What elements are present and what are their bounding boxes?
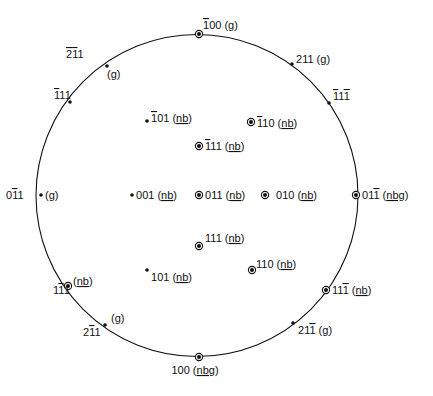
pole-label: 111 bbox=[53, 284, 70, 296]
pole-dot-marker bbox=[263, 193, 267, 197]
tag-paren: ) bbox=[241, 232, 245, 244]
pole-label: 011 (nb) bbox=[205, 189, 245, 201]
pole-1bar11-inner: 111 (nb) bbox=[195, 140, 244, 152]
tag-paren: ) bbox=[215, 364, 219, 376]
tag-paren: ) bbox=[242, 189, 246, 201]
reflection-tag: nb bbox=[176, 271, 188, 283]
tag-paren: ) bbox=[121, 312, 125, 324]
pole-label: 211 bbox=[83, 326, 101, 338]
pole-dot-marker bbox=[291, 321, 295, 325]
tag-paren: ) bbox=[294, 117, 298, 129]
pole-dot-marker bbox=[249, 120, 253, 124]
pole-1bar01: 101 (nb) bbox=[145, 112, 192, 124]
pole-tag-label: (g) bbox=[107, 68, 120, 80]
pole-dot-marker bbox=[145, 268, 149, 272]
pole-label: 111 bbox=[333, 90, 350, 102]
pole-label: 110 (nb) bbox=[256, 258, 296, 270]
reflection-tag: nb bbox=[228, 232, 240, 244]
tag-paren: ) bbox=[188, 112, 192, 124]
tag-paren: ) bbox=[55, 189, 59, 201]
pole-label: 101 (nb) bbox=[151, 271, 192, 283]
pole-label: 001 (nb) bbox=[136, 189, 177, 201]
reflection-tag: nb bbox=[161, 189, 173, 201]
pole-dot-marker bbox=[39, 193, 43, 197]
pole-label: 011 (nbg) bbox=[362, 189, 408, 201]
tag-paren: ) bbox=[293, 258, 297, 270]
poles-layer: 100 (g)211 (g)111211(g)111101 (nb)110 (n… bbox=[6, 19, 408, 376]
reflection-tag: nbg bbox=[386, 189, 404, 201]
pole-21bar1: 211(g) bbox=[83, 312, 124, 338]
pole-1bar11: 111 bbox=[54, 89, 72, 104]
reflection-tag: nb bbox=[301, 189, 313, 201]
pole-dot-marker bbox=[130, 193, 134, 197]
miller-digit: 1 bbox=[64, 284, 70, 296]
miller-digit: 1 bbox=[344, 90, 350, 102]
pole-label: 100 (g) bbox=[203, 19, 238, 31]
pole-dot-marker bbox=[290, 62, 294, 66]
pole-dot-marker bbox=[324, 288, 328, 292]
pole-111: 111 (nb) bbox=[195, 232, 244, 250]
pole-label: 010 (nb) bbox=[276, 189, 317, 201]
miller-digit: 1 bbox=[17, 189, 23, 201]
pole-dot-marker bbox=[197, 355, 201, 359]
pole-101: 101 (nb) bbox=[145, 268, 192, 283]
pole-1bar11bar: 111 bbox=[327, 90, 350, 105]
miller-digit: 1 bbox=[94, 326, 100, 338]
tag-paren: ) bbox=[173, 189, 177, 201]
reflection-tag: nb bbox=[77, 275, 89, 287]
pole-110: 110 (nb) bbox=[248, 258, 296, 274]
pole-dot-marker bbox=[103, 323, 107, 327]
pole-211bar: 211 (g) bbox=[291, 321, 332, 336]
pole-label: 101 (nb) bbox=[151, 112, 192, 124]
tag-paren: ) bbox=[188, 271, 192, 283]
reflection-tag: nbg bbox=[197, 364, 215, 376]
pole-100: 100 (nbg) bbox=[171, 353, 218, 376]
tag-paren: ) bbox=[241, 140, 245, 152]
pole-label: 211 (g) bbox=[296, 53, 330, 65]
pole-011: 011 (nb) bbox=[195, 189, 245, 201]
pole-dot-marker bbox=[145, 119, 149, 123]
tag-paren: ) bbox=[368, 284, 372, 296]
pole-2bar1bar1: 211(g) bbox=[66, 48, 120, 80]
pole-label: 111 (nb) bbox=[205, 140, 244, 152]
tag-paren: ) bbox=[326, 53, 330, 65]
pole-dot-marker bbox=[250, 268, 254, 272]
tag-paren: ) bbox=[234, 19, 238, 31]
pole-label: 011 bbox=[6, 189, 24, 201]
pole-label: 110 (nb) bbox=[257, 117, 297, 129]
pole-label: 111 (nb) bbox=[205, 232, 244, 244]
tag-paren: ) bbox=[117, 68, 121, 80]
pole-1bar10: 110 (nb) bbox=[247, 117, 297, 129]
stereographic-projection: 100 (g)211 (g)111211(g)111101 (nb)110 (n… bbox=[0, 0, 433, 396]
pole-dot-marker bbox=[327, 101, 331, 105]
pole-01bar1: 011(g) bbox=[6, 189, 58, 201]
pole-dot-marker bbox=[197, 244, 201, 248]
pole-dot-marker bbox=[197, 32, 201, 36]
tag-paren: ) bbox=[328, 324, 332, 336]
reflection-tag: nb bbox=[229, 189, 241, 201]
pole-label: 111 (nb) bbox=[332, 284, 371, 296]
reflection-tag: nb bbox=[355, 284, 367, 296]
pole-001: 001 (nb) bbox=[130, 189, 177, 201]
pole-label: 100 (nbg) bbox=[171, 364, 218, 376]
pole-dot-marker bbox=[197, 193, 201, 197]
miller-digit: 1 bbox=[77, 48, 83, 60]
pole-dot-marker bbox=[197, 144, 201, 148]
pole-211: 211 (g) bbox=[290, 53, 330, 66]
pole-label: 211 (g) bbox=[298, 324, 332, 336]
reflection-tag: nb bbox=[228, 140, 240, 152]
pole-label: 111 bbox=[54, 89, 71, 101]
tag-paren: ) bbox=[313, 189, 317, 201]
reflection-tag: nb bbox=[176, 112, 188, 124]
pole-tag-label: (nb) bbox=[73, 275, 93, 287]
pole-dot-marker bbox=[354, 193, 358, 197]
tag-paren: ) bbox=[405, 189, 409, 201]
pole-010: 010 (nb) bbox=[261, 189, 317, 201]
pole-tag-label: (g) bbox=[45, 189, 58, 201]
reflection-tag: nb bbox=[281, 117, 293, 129]
pole-011bar: 011 (nbg) bbox=[352, 189, 408, 201]
pole-label: 211 bbox=[66, 48, 84, 60]
pole-100bar-top: 100 (g) bbox=[195, 19, 238, 38]
reflection-tag: nb bbox=[280, 258, 292, 270]
miller-digit: 1 bbox=[65, 89, 71, 101]
